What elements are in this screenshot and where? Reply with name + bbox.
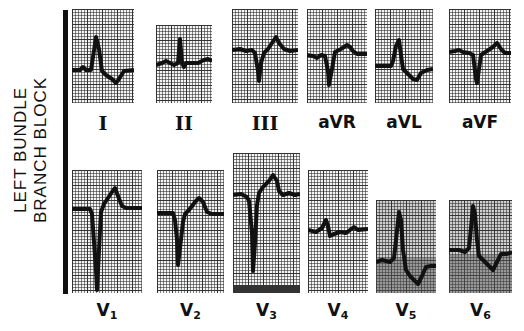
- lead-label-v3: V3: [233, 300, 300, 322]
- lead-label-v2-sub: 2: [193, 309, 201, 322]
- ecg-strip-lead-v4: [308, 170, 368, 293]
- lead-label-v4-sub: 4: [341, 309, 349, 322]
- ecg-strip-lead-i: [72, 9, 134, 103]
- lead-label-v6-main: V: [470, 300, 483, 320]
- ecg-trace-lead-ii: [156, 25, 212, 103]
- lead-label-v4: V4: [308, 300, 368, 322]
- lead-label-i: I: [72, 112, 134, 134]
- ecg-trace-lead-v2: [157, 170, 224, 293]
- lead-label-v3-sub: 3: [269, 309, 277, 322]
- ecg-trace-lead-v3: [233, 153, 300, 293]
- ecg-trace-lead-v5: [376, 200, 436, 293]
- ecg-trace-lead-v4: [308, 170, 368, 293]
- ecg-trace-lead-avr: [307, 9, 367, 103]
- lead-label-v5-sub: 5: [409, 309, 417, 322]
- lead-label-v5-main: V: [396, 300, 409, 320]
- lead-label-v6-sub: 6: [483, 309, 491, 322]
- ecg-trace-lead-avf: [449, 9, 511, 103]
- title-line-2: BRANCH BLOCK: [31, 77, 51, 223]
- lead-label-avr: aVR: [302, 112, 372, 132]
- ecg-strip-lead-ii: [156, 25, 212, 103]
- ecg-strip-lead-v5: [376, 200, 436, 293]
- lead-label-avf: aVF: [445, 112, 515, 132]
- ecg-trace-lead-v6: [449, 200, 512, 293]
- ecg-trace-lead-i: [72, 9, 134, 103]
- lead-label-v2: V2: [157, 300, 224, 322]
- lead-label-v4-main: V: [328, 300, 341, 320]
- lead-label-v1-sub: 1: [110, 309, 118, 322]
- divider-bar: [63, 10, 68, 294]
- lead-label-v1: V1: [72, 300, 142, 322]
- ecg-strip-lead-avf: [449, 9, 511, 103]
- ecg-trace-lead-avl: [375, 9, 433, 103]
- lead-label-v5: V5: [376, 300, 436, 322]
- lead-label-v6: V6: [449, 300, 512, 322]
- ecg-strip-lead-avr: [307, 9, 367, 103]
- lead-label-v3-main: V: [256, 300, 269, 320]
- figure-title: LEFT BUNDLE BRANCH BLOCK: [0, 0, 62, 331]
- title-text: LEFT BUNDLE BRANCH BLOCK: [11, 77, 51, 223]
- ecg-strip-lead-iii: [232, 9, 298, 103]
- lead-label-iii: III: [232, 112, 298, 134]
- lead-label-v1-main: V: [97, 300, 110, 320]
- ecg-trace-lead-v1: [72, 170, 142, 293]
- ecg-strip-lead-v3: [233, 153, 300, 293]
- ecg-strip-lead-v6: [449, 200, 512, 293]
- ecg-strip-lead-v1: [72, 170, 142, 293]
- ecg-strip-lead-v2: [157, 170, 224, 293]
- lead-label-ii: II: [156, 112, 212, 134]
- lead-label-avl: aVL: [369, 112, 439, 132]
- ecg-strip-lead-avl: [375, 9, 433, 103]
- lead-label-v2-main: V: [180, 300, 193, 320]
- ecg-trace-lead-iii: [232, 9, 298, 103]
- title-line-1: LEFT BUNDLE: [11, 77, 31, 223]
